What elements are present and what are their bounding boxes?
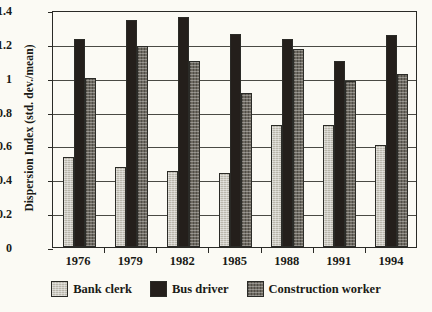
x-axis-tick-mark bbox=[156, 248, 157, 253]
x-axis-tick-mark bbox=[208, 248, 209, 253]
legend-swatch bbox=[247, 281, 264, 297]
legend-swatch bbox=[51, 281, 68, 297]
bar bbox=[375, 145, 386, 247]
legend-label: Construction worker bbox=[269, 282, 381, 297]
y-axis-tick-mark bbox=[48, 147, 53, 148]
x-axis-tick-label: 1994 bbox=[361, 254, 421, 269]
bar bbox=[386, 35, 397, 247]
bar-group bbox=[167, 12, 200, 247]
y-axis-tick-label: 0.6 bbox=[0, 139, 12, 154]
legend-swatch bbox=[150, 281, 167, 297]
bar bbox=[137, 46, 148, 247]
legend-item: Bank clerk bbox=[51, 281, 132, 297]
bar bbox=[241, 93, 252, 247]
y-axis-tick-label: 0.2 bbox=[0, 207, 12, 222]
bar-group bbox=[271, 12, 304, 247]
x-axis-tick-label: 1985 bbox=[205, 254, 265, 269]
x-axis-tick-label: 1988 bbox=[257, 254, 317, 269]
x-axis-tick-label: 1991 bbox=[309, 254, 369, 269]
y-axis-tick-label: 0 bbox=[0, 241, 12, 256]
bar-group bbox=[219, 12, 252, 247]
legend-label: Bus driver bbox=[172, 282, 229, 297]
y-axis-tick-label: 1.4 bbox=[0, 4, 12, 19]
bar bbox=[282, 39, 293, 247]
y-axis-tick-mark bbox=[48, 181, 53, 182]
bar bbox=[345, 81, 356, 247]
bar-group bbox=[323, 12, 356, 247]
y-axis-title: Dispersion Index (std. dev./mean) bbox=[23, 3, 35, 253]
plot-area bbox=[52, 11, 417, 248]
y-axis-tick-label: 1 bbox=[0, 71, 12, 86]
x-axis-tick-mark bbox=[261, 248, 262, 253]
bar-group bbox=[63, 12, 96, 247]
y-axis-tick-label: 0.8 bbox=[0, 105, 12, 120]
x-axis-tick-mark bbox=[104, 248, 105, 253]
bar bbox=[293, 49, 304, 247]
chart-legend: Bank clerkBus driverConstruction worker bbox=[0, 281, 432, 297]
y-axis-tick-label: 1.2 bbox=[0, 37, 12, 52]
y-axis-tick-mark bbox=[48, 80, 53, 81]
y-axis-tick-label: 0.4 bbox=[0, 173, 12, 188]
x-axis-tick-mark bbox=[313, 248, 314, 253]
x-axis-tick-mark bbox=[365, 248, 366, 253]
x-axis-tick-label: 1976 bbox=[48, 254, 108, 269]
bar bbox=[178, 17, 189, 247]
bar bbox=[334, 61, 345, 247]
y-axis-tick-mark bbox=[48, 215, 53, 216]
bar bbox=[189, 61, 200, 247]
bar bbox=[219, 173, 230, 247]
bar bbox=[397, 74, 408, 247]
y-axis-tick-mark bbox=[48, 46, 53, 47]
legend-item: Construction worker bbox=[247, 281, 381, 297]
bar-group bbox=[115, 12, 148, 247]
bar bbox=[126, 20, 137, 247]
bar bbox=[230, 34, 241, 247]
y-axis-tick-mark bbox=[48, 12, 53, 13]
bar bbox=[85, 78, 96, 247]
bar bbox=[323, 125, 334, 247]
bar bbox=[167, 171, 178, 247]
y-axis-tick-mark bbox=[48, 114, 53, 115]
y-axis-tick-mark bbox=[48, 249, 53, 250]
bar-group bbox=[375, 12, 408, 247]
legend-label: Bank clerk bbox=[73, 282, 132, 297]
bar bbox=[115, 167, 126, 247]
x-axis-tick-label: 1982 bbox=[152, 254, 212, 269]
bar bbox=[74, 39, 85, 247]
x-axis-tick-label: 1979 bbox=[100, 254, 160, 269]
bar bbox=[271, 125, 282, 247]
chart-figure: Dispersion Index (std. dev./mean) 00.20.… bbox=[0, 0, 432, 312]
legend-item: Bus driver bbox=[150, 281, 229, 297]
bar bbox=[63, 157, 74, 247]
